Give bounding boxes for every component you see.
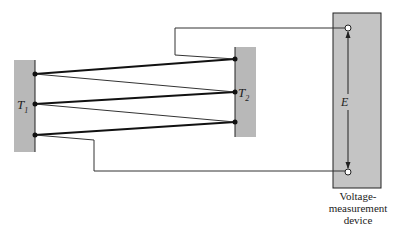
thick-wires [35,59,235,135]
caption-line-1: Voltage- [322,190,394,202]
thin-wires [35,28,345,171]
thermopile-diagram: T1 T2 E Voltage- measurement device [0,0,402,235]
top-terminal-icon [345,25,351,31]
voltage-label: E [341,95,348,110]
device-caption: Voltage- measurement device [322,190,394,226]
t2-label: T2 [238,85,249,103]
caption-line-2: measurement [322,202,394,214]
caption-line-3: device [322,214,394,226]
t1-label: T1 [17,97,28,115]
bottom-terminal-icon [345,169,351,175]
